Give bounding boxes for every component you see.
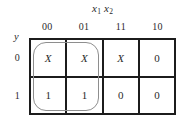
kmap-row-1: 1 1 0 0 — [31, 76, 174, 114]
column-header-row: 00 01 11 10 — [29, 20, 176, 34]
column-header-2: 11 — [103, 20, 140, 34]
kmap-cell-r0c0: X — [31, 40, 65, 76]
column-variable-header: x1x2 — [29, 2, 176, 18]
row-header-1: 1 — [8, 77, 27, 116]
kmap-cell-r1c0: 1 — [31, 78, 65, 114]
kmap-cell-r1c3: 0 — [138, 78, 174, 114]
kmap-row-0: X X X 0 — [31, 40, 174, 76]
kmap-cell-r1c2: 0 — [102, 78, 138, 114]
column-header-1: 01 — [66, 20, 103, 34]
column-variable-2-subscript: 2 — [109, 7, 113, 16]
kmap-cell-r0c1: X — [65, 40, 101, 76]
kmap-cell-r0c3: 0 — [138, 40, 174, 76]
column-variable-1-subscript: 1 — [97, 7, 101, 16]
kmap-grid: X X X 0 1 1 0 0 — [29, 38, 176, 115]
row-header-column: 0 1 — [8, 38, 27, 115]
row-header-0: 0 — [8, 38, 27, 77]
kmap-cell-r0c2: X — [102, 40, 138, 76]
kmap-cell-r1c1: 1 — [65, 78, 101, 114]
column-header-3: 10 — [139, 20, 176, 34]
karnaugh-map-figure: x1x2 00 01 11 10 y 0 1 X X X 0 1 1 0 0 — [0, 0, 183, 123]
column-header-0: 00 — [29, 20, 66, 34]
